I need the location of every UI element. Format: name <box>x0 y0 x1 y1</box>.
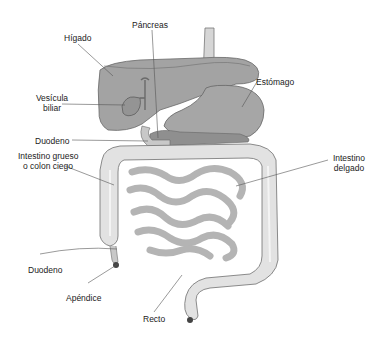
label-vesicula-biliar: Vesícula biliar <box>34 93 70 113</box>
label-apendice: Apéndice <box>66 293 101 303</box>
label-recto: Recto <box>143 314 165 324</box>
label-estomago: Estómago <box>256 77 294 87</box>
label-intestino-delgado-line1: Intestino <box>329 153 369 163</box>
label-intestino-delgado: Intestino delgado <box>329 153 369 173</box>
large-intestine <box>100 144 278 320</box>
label-higado: Hígado <box>64 33 91 43</box>
label-duodeno-upper: Duodeno <box>35 136 70 146</box>
label-intestino-grueso-line1: Intestino grueso <box>18 151 78 161</box>
label-vesicula-line1: Vesícula <box>34 93 70 103</box>
label-intestino-grueso-line2: o colon ciego <box>18 161 78 171</box>
digestive-system-illustration <box>0 0 382 343</box>
label-duodeno-lower: Duodeno <box>28 265 63 275</box>
label-pancreas: Páncreas <box>132 20 168 30</box>
label-vesicula-line2: biliar <box>34 103 70 113</box>
label-intestino-grueso: Intestino grueso o colon ciego <box>18 151 78 171</box>
label-intestino-delgado-line2: delgado <box>329 163 369 173</box>
small-intestine <box>130 168 242 258</box>
